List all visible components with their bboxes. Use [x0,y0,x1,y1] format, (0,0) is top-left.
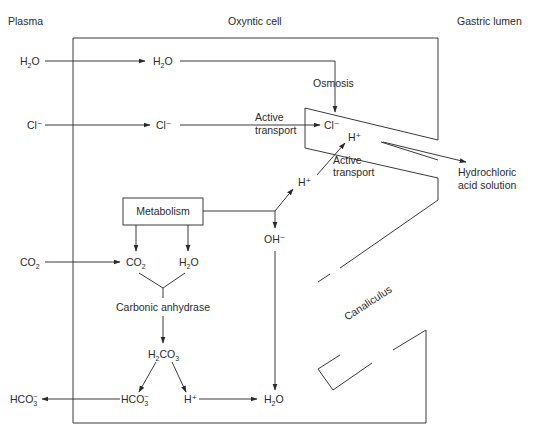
header-gastric-lumen: Gastric lumen [457,15,522,27]
cell-co2-label: CO2 [126,256,146,270]
hcl-output-line1: Hydrochloric [458,166,516,178]
header-plasma: Plasma [8,15,43,27]
cell-bicarbonate-label: HCO3− [121,393,148,407]
metabolic-h2o-label: H2O [179,256,199,270]
hcl-output-arrow [383,142,466,162]
canaliculus-label: Canaliculus [342,283,394,323]
carbonic-anhydrase-label: Carbonic anhydrase [116,301,210,313]
plasma-co2-label: CO2 [20,256,40,270]
active-transport-h-line2: transport [333,166,375,178]
to-bicarbonate-arrow [139,362,156,392]
canaliculus-chloride-label: Cl⁻ [324,119,339,131]
active-transport-cl-line2: transport [255,124,297,136]
canaliculus-proton-label: H⁺ [348,131,361,143]
metabolism-box: Metabolism [123,198,203,225]
osmosis-arrow [180,61,335,112]
cell-membrane [73,38,438,423]
oxyntic-cell-diagram: Plasma Oxyntic cell Gastric lumen H2O H2… [0,0,539,439]
hydroxide-label: OH⁻ [264,233,285,245]
active-transport-h-line1: Active [333,154,362,166]
junction-to-proton-arrow [275,189,293,211]
canaliculus-lumen-edge [381,142,438,160]
carbonic-acid-label: H2CO3 [148,348,179,362]
plasma-bicarbonate-label: HCO3− [10,393,37,407]
product-water-label: H2O [264,393,284,407]
plasma-h2o-label: H2O [20,55,40,69]
cell-h2o-label: H2O [153,55,173,69]
osmosis-label: Osmosis [313,77,354,89]
metabolism-label: Metabolism [136,205,190,217]
hcl-output-line2: acid solution [458,179,517,191]
header-oxyntic-cell: Oxyntic cell [228,15,282,27]
cell-chloride-label: Cl⁻ [156,119,171,131]
cell-proton-upper-label: H⁺ [298,176,311,188]
cell-proton-label: H⁺ [184,393,197,405]
to-proton-arrow [172,362,186,392]
active-transport-cl-line1: Active [255,111,284,123]
plasma-chloride-label: Cl⁻ [27,119,42,131]
diagram-canvas: Plasma Oxyntic cell Gastric lumen H2O H2… [0,0,539,439]
combine-lines [139,273,185,288]
